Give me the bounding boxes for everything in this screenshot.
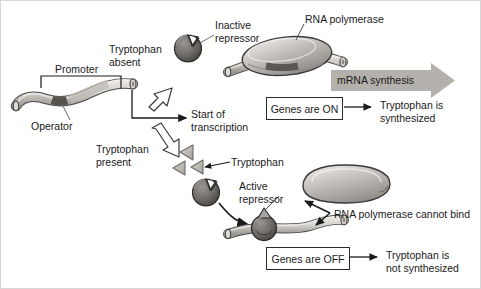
genes-off-box: Genes are OFF	[266, 247, 350, 270]
repressor-bound-to-operator	[252, 208, 277, 241]
genes-on-box: Genes are ON	[266, 97, 343, 120]
label-rna-polymerase-cannot-bind: RNA polymerase cannot bind	[334, 208, 470, 220]
label-active-repressor-line1: Active	[239, 180, 268, 192]
label-start-of-transcription-line2: transcription	[191, 121, 248, 133]
tryptophan-leader-line	[205, 162, 230, 167]
label-operator: Operator	[31, 120, 72, 132]
inactive-repressor-leader-line	[200, 35, 214, 43]
label-tryptophan-present-line1: Tryptophan	[96, 143, 149, 155]
repressor-binding-arrow	[219, 203, 247, 224]
label-active-repressor-line2: repressor	[239, 193, 283, 205]
label-tryptophan-molecule: Tryptophan	[231, 156, 284, 168]
label-tryptophan-is-synthesized-line1: Tryptophan is	[380, 99, 443, 111]
label-start-of-transcription-line1: Start of	[191, 108, 225, 120]
label-tryptophan-absent-line2: absent	[109, 56, 141, 68]
label-promoter: Promoter	[55, 63, 98, 75]
label-tryptophan-not-synthesized-line1: Tryptophan is	[386, 249, 449, 261]
rna-polymerase-free-shape	[303, 165, 390, 203]
label-tryptophan-absent-line1: Tryptophan	[109, 43, 162, 55]
label-tryptophan-present-line2: present	[96, 156, 131, 168]
label-mrna-synthesis: mRNA synthesis	[337, 74, 414, 86]
label-inactive-repressor-line2: repressor	[215, 32, 259, 44]
block-arrow-tryptophan-present	[152, 123, 179, 157]
dna-strand-lower	[225, 215, 347, 239]
dna-strand-main	[13, 79, 136, 111]
label-tryptophan-not-synthesized-line2: not synthesized	[386, 262, 459, 274]
active-repressor-shape	[193, 179, 220, 206]
operator-leader-line	[62, 104, 70, 120]
block-arrow-tryptophan-absent	[149, 88, 172, 111]
label-tryptophan-is-synthesized-line2: synthesized	[380, 112, 435, 124]
label-inactive-repressor-line1: Inactive	[215, 19, 251, 31]
label-rna-polymerase: RNA polymerase	[305, 13, 384, 25]
inactive-repressor-shape	[175, 35, 202, 62]
